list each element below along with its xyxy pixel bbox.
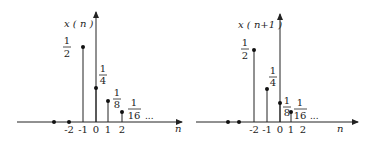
tick-label: -1 xyxy=(78,124,88,135)
x-axis-label: n xyxy=(175,123,181,134)
tick-label: -1 xyxy=(262,124,272,135)
tick-label: 2 xyxy=(300,124,306,135)
ellipsis: ... xyxy=(310,111,319,121)
value-label-eighth: 1 8 xyxy=(283,95,291,118)
zero-point xyxy=(226,120,230,124)
y-axis-label: x ( n ) xyxy=(64,18,94,29)
svg-text:16: 16 xyxy=(294,110,307,121)
stem-marker xyxy=(278,101,282,105)
zero-point xyxy=(237,120,241,124)
value-label-half: 1 2 xyxy=(63,35,71,59)
svg-text:1: 1 xyxy=(131,97,137,108)
tick-label: 2 xyxy=(119,124,125,135)
plot-x-n: x ( n ) n 1 2 1 4 1 8 1 16 xyxy=(17,12,182,135)
stem-marker xyxy=(120,110,124,114)
tick-label: -2 xyxy=(64,124,74,135)
value-label-eighth: 1 8 xyxy=(113,87,121,110)
svg-text:1: 1 xyxy=(270,65,276,76)
value-label-quarter: 1 4 xyxy=(269,65,277,88)
svg-text:1: 1 xyxy=(114,87,120,98)
value-label-quarter: 1 4 xyxy=(99,63,107,86)
value-label-sixteenth: 1 16 xyxy=(294,97,307,121)
x-axis-label: n xyxy=(337,123,343,134)
stem-marker xyxy=(81,45,85,49)
svg-text:2: 2 xyxy=(64,48,70,59)
tick-label: 1 xyxy=(288,124,294,135)
stem-marker xyxy=(265,87,269,91)
svg-text:1: 1 xyxy=(297,97,303,108)
tick-label: -2 xyxy=(249,124,259,135)
tick-label: 0 xyxy=(277,124,283,135)
ellipsis: ... xyxy=(145,111,154,121)
plot-x-n-plus-1: x ( n+1 ) n 1 2 1 4 1 8 1 16 xyxy=(196,14,358,135)
tick-label: 0 xyxy=(93,124,99,135)
svg-text:1: 1 xyxy=(284,95,290,106)
svg-text:2: 2 xyxy=(242,50,248,61)
stem-marker xyxy=(94,86,98,90)
svg-text:1: 1 xyxy=(242,37,248,48)
stem-marker xyxy=(106,99,110,103)
value-label-half: 1 2 xyxy=(241,37,249,61)
tick-label: 1 xyxy=(105,124,111,135)
svg-text:1: 1 xyxy=(100,63,106,74)
stem-plots: x ( n ) n 1 2 1 4 1 8 1 16 xyxy=(0,0,367,142)
svg-text:4: 4 xyxy=(100,75,106,86)
value-label-sixteenth: 1 16 xyxy=(128,97,141,121)
svg-text:1: 1 xyxy=(64,35,70,46)
y-axis-label: x ( n+1 ) xyxy=(238,19,282,30)
zero-point xyxy=(52,120,56,124)
svg-text:8: 8 xyxy=(284,107,290,118)
stem-marker xyxy=(252,48,256,52)
svg-text:4: 4 xyxy=(270,77,276,88)
svg-text:16: 16 xyxy=(128,110,141,121)
svg-text:8: 8 xyxy=(114,99,120,110)
